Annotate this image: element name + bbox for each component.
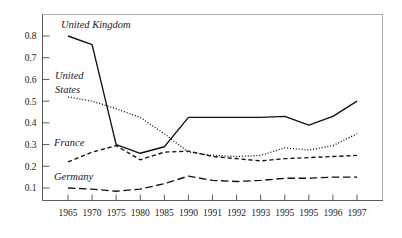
x-tick-label: 1996 — [323, 208, 342, 218]
annotation-united-states-line2: States — [55, 84, 80, 95]
chart-page: 0.10.20.30.40.50.60.70.8 196519701975198… — [0, 0, 402, 238]
x-axis-ticks — [68, 195, 357, 201]
series-line-germany — [68, 176, 357, 191]
x-tick-label: 1995 — [275, 208, 294, 218]
x-tick-label: 1970 — [83, 208, 102, 218]
y-tick-label: 0.5 — [25, 97, 37, 107]
x-tick-label: 1990 — [179, 208, 198, 218]
x-tick-label: 1991 — [203, 208, 222, 218]
y-tick-label: 0.4 — [25, 118, 37, 128]
x-tick-label: 1980 — [131, 208, 150, 218]
x-tick-label: 1965 — [59, 208, 78, 218]
y-tick-label: 0.6 — [25, 75, 37, 85]
x-tick-label: 1975 — [107, 208, 126, 218]
x-axis-tick-labels: 1965197019751980198519901991199219931995… — [59, 208, 367, 218]
annotation-germany: Germany — [54, 171, 93, 182]
x-tick-label: 1985 — [155, 208, 174, 218]
series-line-united-kingdom — [68, 36, 357, 153]
annotation-united-states-line1: United — [55, 70, 84, 81]
y-axis-tick-labels: 0.10.20.30.40.50.60.70.8 — [25, 31, 37, 193]
y-axis-ticks — [43, 36, 50, 188]
annotation-united-kingdom: United Kingdom — [61, 19, 131, 30]
y-tick-label: 0.3 — [25, 140, 37, 150]
y-tick-label: 0.1 — [25, 183, 37, 193]
x-tick-label: 1995 — [299, 208, 318, 218]
x-tick-label: 1993 — [251, 208, 270, 218]
annotation-france: France — [53, 137, 85, 148]
line-chart: 0.10.20.30.40.50.60.70.8 196519701975198… — [0, 0, 402, 238]
x-tick-label: 1992 — [227, 208, 246, 218]
x-tick-label: 1997 — [348, 208, 367, 218]
y-tick-label: 0.7 — [25, 53, 37, 63]
data-series-group — [68, 36, 357, 191]
y-tick-label: 0.8 — [25, 31, 37, 41]
y-tick-label: 0.2 — [25, 162, 37, 172]
series-line-france — [68, 146, 357, 162]
